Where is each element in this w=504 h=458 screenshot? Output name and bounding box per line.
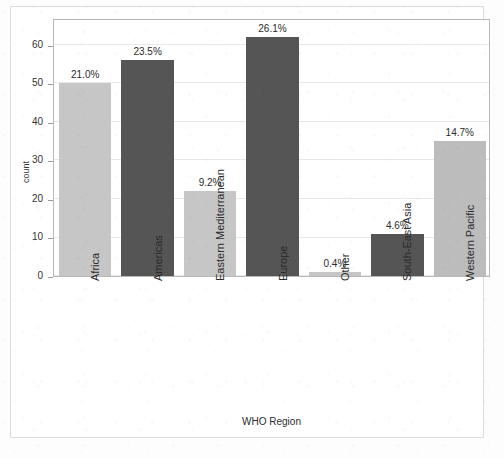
y-axis-tick: 60: [0, 46, 53, 47]
bar[interactable]: [184, 191, 236, 276]
bar-value-label: 23.5%: [103, 46, 193, 57]
x-tick-label: Western Pacific: [464, 205, 476, 281]
y-tick-mark: [48, 277, 53, 278]
y-tick-label: 20: [32, 193, 43, 204]
x-axis-tick-labels: AfricaAmericasEastern MediterraneanEurop…: [53, 281, 490, 401]
y-axis-tick: 0: [0, 277, 53, 278]
y-axis-tick: 50: [0, 84, 53, 85]
x-tick-label: Eastern Mediterranean: [214, 169, 226, 281]
x-tick-label: Other: [339, 253, 351, 281]
x-axis-title: WHO Region: [53, 416, 490, 427]
y-axis-tick: 10: [0, 238, 53, 239]
chart-figure: count 0102030405060 21.0%23.5%9.2%26.1%0…: [0, 0, 504, 458]
bar-group[interactable]: 26.1%: [246, 18, 298, 276]
bar-value-label: 9.2%: [165, 177, 255, 188]
x-tick-label: South-East Asia: [401, 203, 413, 281]
bar-value-label: 4.6%: [352, 220, 442, 231]
bar-group[interactable]: 14.7%: [434, 18, 486, 276]
y-axis: count 0102030405060: [0, 19, 53, 277]
bar-group[interactable]: 9.2%: [184, 18, 236, 276]
bar-value-label: 14.7%: [415, 127, 504, 138]
y-axis-tick: 20: [0, 200, 53, 201]
bar[interactable]: [434, 141, 486, 276]
plot-area: 21.0%23.5%9.2%26.1%0.4%4.6%14.7%: [53, 19, 490, 277]
y-tick-label: 10: [32, 231, 43, 242]
x-tick-label: Africa: [89, 253, 101, 281]
y-axis-tick: 40: [0, 123, 53, 124]
bar-group[interactable]: 0.4%: [309, 18, 361, 276]
y-tick-label: 0: [37, 270, 43, 281]
bar[interactable]: [59, 83, 111, 276]
bar-group[interactable]: 23.5%: [121, 18, 173, 276]
y-tick-label: 30: [32, 154, 43, 165]
x-tick-label: Americas: [152, 235, 164, 281]
y-tick-label: 60: [32, 39, 43, 50]
bar-value-label: 0.4%: [290, 258, 380, 269]
bar[interactable]: [246, 37, 298, 276]
x-tick-label: Europe: [277, 246, 289, 281]
bar-group[interactable]: 4.6%: [371, 18, 423, 276]
y-axis-title: count: [21, 142, 31, 202]
bar-series: 21.0%23.5%9.2%26.1%0.4%4.6%14.7%: [54, 20, 489, 276]
bar[interactable]: [309, 272, 361, 276]
y-axis-tick: 30: [0, 161, 53, 162]
bar-value-label: 26.1%: [227, 23, 317, 34]
y-tick-label: 40: [32, 116, 43, 127]
bar-value-label: 21.0%: [40, 69, 130, 80]
bar[interactable]: [121, 60, 173, 276]
bar[interactable]: [371, 234, 423, 276]
